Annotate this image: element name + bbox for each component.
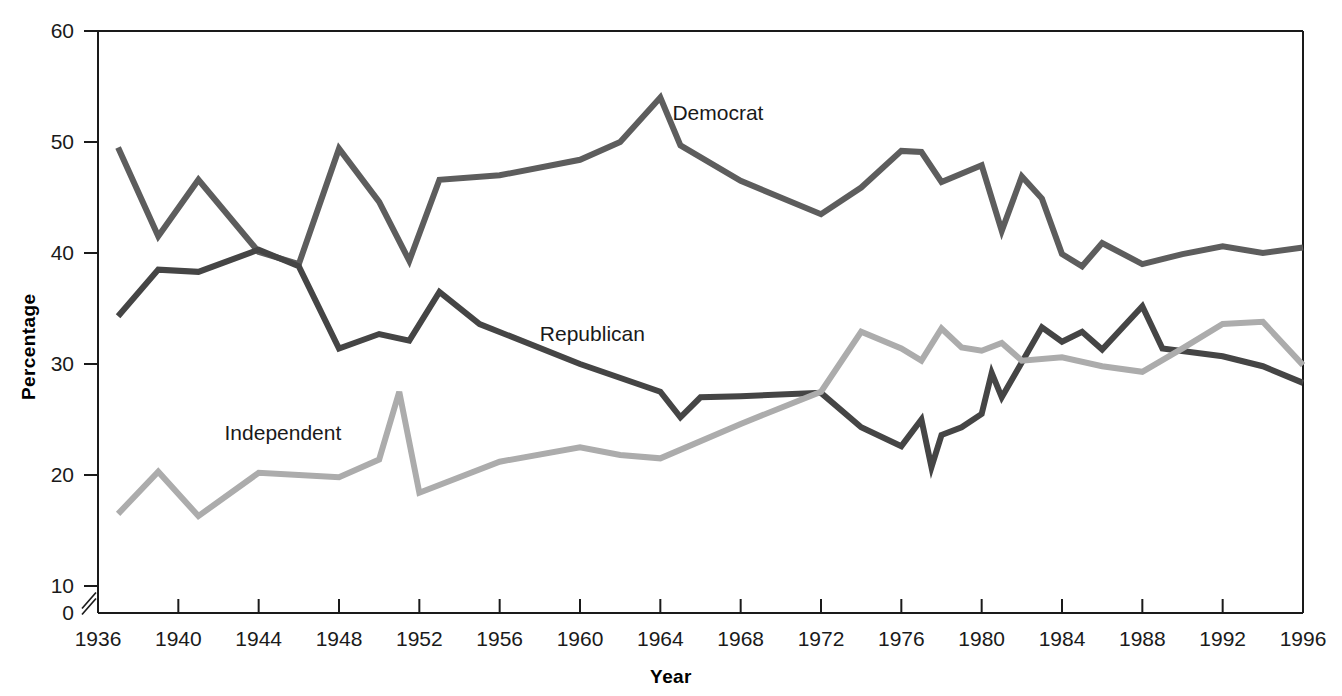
series-group [118,98,1303,516]
y-tick-label-10: 10 [0,574,74,598]
line-chart-plot [0,0,1342,696]
y-axis-title: Percentage [18,294,40,400]
y-tick-label-40: 40 [0,241,74,265]
x-tick-label-1976: 1976 [878,627,925,651]
y-tick-label-60: 60 [0,19,74,43]
series-label-republican: Republican [540,322,645,346]
x-tick-label-1956: 1956 [476,627,523,651]
x-tick-label-1948: 1948 [316,627,363,651]
series-label-democrat: Democrat [672,101,763,125]
y-tick-label-20: 20 [0,463,74,487]
x-tick-label-1972: 1972 [798,627,845,651]
y-tick-label-50: 50 [0,130,74,154]
y-tick-label-0: 0 [0,601,74,625]
x-tick-label-1992: 1992 [1199,627,1246,651]
x-tick-label-1952: 1952 [396,627,443,651]
x-tick-label-1968: 1968 [717,627,764,651]
x-tick-label-1960: 1960 [557,627,604,651]
x-tick-label-1980: 1980 [958,627,1005,651]
x-tick-label-1944: 1944 [235,627,282,651]
x-tick-label-1996: 1996 [1280,627,1327,651]
x-axis-title: Year [0,666,1342,688]
series-label-independent: Independent [225,421,342,445]
series-line-independent [118,322,1303,516]
x-tick-label-1964: 1964 [637,627,684,651]
x-tick-label-1940: 1940 [155,627,202,651]
y-tick-label-30: 30 [0,352,74,376]
x-tick-label-1988: 1988 [1119,627,1166,651]
x-tick-label-1936: 1936 [75,627,122,651]
chart-container: Percentage Year 605040302010019361940194… [0,0,1342,696]
x-tick-label-1984: 1984 [1039,627,1086,651]
